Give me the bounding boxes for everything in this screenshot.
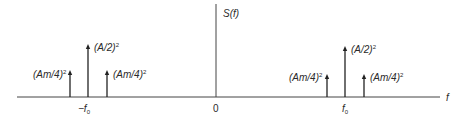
- arrowhead-icon: [86, 44, 90, 49]
- impulse-label-right-upper: (Am/4)2: [370, 72, 403, 83]
- arrowhead-icon: [362, 74, 366, 79]
- tick-neg-f0: −f0: [78, 104, 90, 115]
- impulse-label-left-lower: (Am/4)2: [33, 69, 66, 80]
- arrowhead-icon: [343, 46, 347, 51]
- arrowhead-icon: [68, 70, 72, 75]
- arrowhead-icon: [105, 70, 109, 75]
- impulse-label-right-lower: (Am/4)2: [289, 72, 322, 83]
- arrowhead-icon: [325, 74, 329, 79]
- tick-pos-f0: f0: [342, 104, 348, 115]
- horizontal-axis-label: f: [446, 93, 449, 103]
- impulse-label-left-upper: (Am/4)2: [113, 69, 146, 80]
- vertical-axis-label: S(f): [223, 9, 239, 19]
- tick-zero: 0: [213, 104, 219, 114]
- impulse-label-left-carrier: (A/2)2: [94, 42, 119, 53]
- impulse-label-right-carrier: (A/2)2: [351, 44, 376, 55]
